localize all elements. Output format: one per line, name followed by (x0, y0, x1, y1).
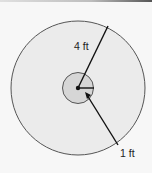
center-point (76, 86, 80, 90)
concentric-circles-figure: 4 ft 1 ft (0, 0, 152, 173)
diagram-canvas: 4 ft 1 ft (0, 0, 152, 173)
outer-radius-label: 4 ft (74, 40, 89, 52)
inner-radius-label: 1 ft (120, 147, 135, 159)
